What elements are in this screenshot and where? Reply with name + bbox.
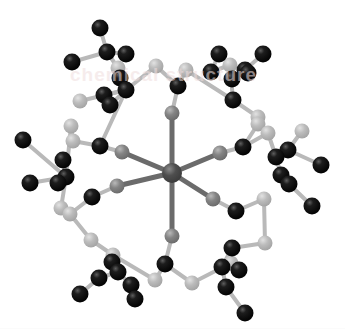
atom-carbon — [281, 176, 298, 193]
atom-carbon — [214, 259, 231, 276]
atom-carbon — [255, 46, 272, 63]
atom-carbon — [268, 149, 285, 166]
atom-donor — [165, 106, 180, 121]
atom-backbone — [295, 124, 310, 139]
atom-backbone — [258, 236, 273, 251]
atom-carbon — [118, 82, 135, 99]
atom-donor — [165, 229, 180, 244]
atom-carbon — [92, 138, 109, 155]
atom-carbon — [218, 279, 235, 296]
atom-carbon — [110, 264, 127, 281]
atom-carbon — [22, 175, 39, 192]
atom-carbon — [91, 270, 108, 287]
atom-carbon — [84, 189, 101, 206]
atom-carbon — [237, 305, 254, 322]
atom-donor — [206, 192, 221, 207]
atom-backbone — [66, 134, 81, 149]
atom-backbone — [148, 273, 163, 288]
atom-donor — [115, 145, 130, 160]
atom-metal — [162, 163, 182, 183]
atom-carbon — [225, 92, 242, 109]
atom-carbon — [127, 291, 144, 308]
atom-carbon — [224, 71, 241, 88]
atom-carbon — [92, 20, 109, 37]
molecular-structure-figure: chemical structure — [0, 0, 345, 330]
atom-carbon — [99, 44, 116, 61]
atom-backbone — [73, 94, 88, 109]
atom-carbon — [313, 157, 330, 174]
atom-carbon — [157, 256, 174, 273]
atom-backbone — [149, 59, 164, 74]
atom-carbon — [102, 97, 119, 114]
atom-donor — [110, 179, 125, 194]
atom-carbon — [211, 46, 228, 63]
atom-donor — [213, 146, 228, 161]
atom-backbone — [84, 233, 99, 248]
atom-carbon — [203, 64, 220, 81]
atom-backbone — [64, 119, 79, 134]
atom-carbon — [304, 198, 321, 215]
atom-carbon — [224, 240, 241, 257]
atom-backbone — [63, 207, 78, 222]
atom-carbon — [118, 46, 135, 63]
atom-carbon — [55, 152, 72, 169]
atom-carbon — [50, 175, 67, 192]
atom-carbon — [235, 139, 252, 156]
atom-carbon — [231, 262, 248, 279]
molecule-canvas — [0, 0, 345, 330]
atom-carbon — [64, 54, 81, 71]
atom-carbon — [228, 203, 245, 220]
atom-carbon — [240, 65, 257, 82]
atom-carbon — [170, 78, 187, 95]
atom-backbone — [179, 63, 194, 78]
bottom-edge-artifact — [0, 328, 345, 329]
atom-carbon — [15, 132, 32, 149]
atom-backbone — [261, 126, 276, 141]
atom-carbon — [72, 286, 89, 303]
atom-backbone — [185, 276, 200, 291]
atom-backbone — [257, 192, 272, 207]
